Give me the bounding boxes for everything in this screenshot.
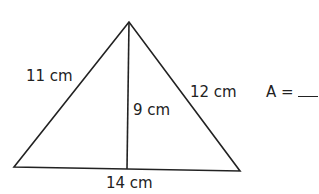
area-label: A = xyxy=(266,83,294,101)
base-label: 14 cm xyxy=(106,176,153,191)
answer-blank xyxy=(298,96,318,97)
height-line xyxy=(127,22,129,169)
left-side-label: 11 cm xyxy=(26,69,73,84)
height-label: 9 cm xyxy=(133,103,170,118)
area-answer-prompt: A = xyxy=(266,85,318,100)
right-side-label: 12 cm xyxy=(190,85,237,100)
